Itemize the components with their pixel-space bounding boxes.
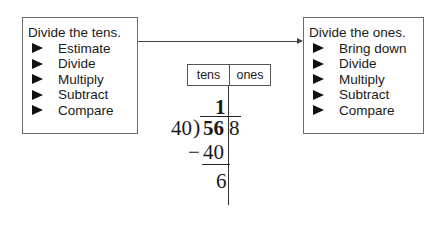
step-label: Subtract (58, 87, 108, 103)
bullet-triangle-icon (32, 74, 43, 84)
step-label: Estimate (58, 41, 111, 57)
bullet-triangle-icon (32, 105, 43, 115)
step-label: Divide (58, 56, 96, 72)
divisor: 40 (171, 118, 192, 139)
step-item: Divide (309, 56, 423, 72)
dividend-tens-part: 56 (203, 118, 224, 139)
quotient: 1 (215, 97, 226, 118)
step-item: Subtract (28, 87, 137, 103)
step-label: Compare (339, 103, 395, 119)
step-label: Divide (339, 56, 377, 72)
place-value-header: tens ones (187, 64, 271, 86)
subtrahend: 40 (203, 142, 224, 163)
step-label: Subtract (339, 87, 389, 103)
ones-column-label: ones (230, 65, 270, 85)
step-item: Bring down (309, 41, 423, 57)
divide-ones-box: Divide the ones. Bring down Divide Multi… (303, 17, 424, 134)
step-item: Divide (28, 56, 137, 72)
bullet-triangle-icon (313, 74, 324, 84)
step-label: Multiply (339, 72, 385, 88)
step-item: Estimate (28, 41, 137, 57)
bullet-triangle-icon (313, 43, 324, 53)
step-item: Multiply (309, 72, 423, 88)
bullet-triangle-icon (32, 43, 43, 53)
dividend-ones-part: 8 (229, 118, 240, 139)
minus-sign: − (188, 142, 200, 163)
divide-tens-title: Divide the tens. (28, 25, 137, 41)
connector-line (138, 41, 301, 42)
division-bracket-icon: ) (193, 116, 200, 137)
divide-tens-box: Divide the tens. Estimate Divide Multipl… (22, 17, 138, 134)
subtraction-line (202, 164, 230, 165)
bullet-triangle-icon (32, 90, 43, 100)
step-item: Multiply (28, 72, 137, 88)
tens-column-label: tens (188, 65, 230, 85)
bullet-triangle-icon (32, 59, 43, 69)
remainder: 6 (216, 171, 227, 192)
bullet-triangle-icon (313, 90, 324, 100)
step-label: Multiply (58, 72, 104, 88)
step-label: Bring down (339, 41, 407, 57)
divide-ones-title: Divide the ones. (309, 25, 423, 41)
step-label: Compare (58, 103, 114, 119)
step-item: Compare (28, 103, 137, 119)
place-value-divider-line (228, 86, 229, 205)
bullet-triangle-icon (313, 105, 324, 115)
step-item: Compare (309, 103, 423, 119)
bullet-triangle-icon (313, 59, 324, 69)
step-item: Subtract (309, 87, 423, 103)
